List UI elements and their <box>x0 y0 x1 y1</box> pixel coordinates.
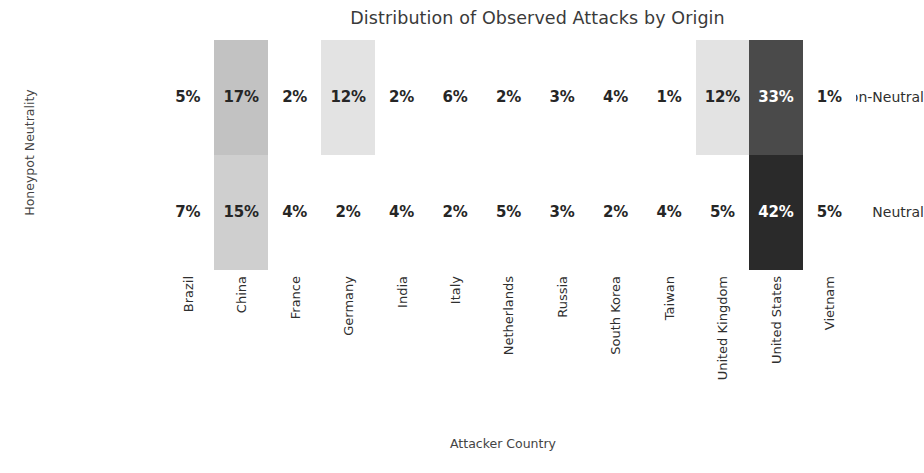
heatmap-row-non-neutral: 5%17%2%12%2%6%2%3%4%1%12%33%1% <box>161 40 856 155</box>
heatmap-cell: 4% <box>642 155 695 270</box>
heatmap-cell: 1% <box>803 40 856 155</box>
heatmap-cell-value: 3% <box>549 90 574 105</box>
x-tick-slot: United Kingdom <box>696 270 749 430</box>
heatmap-cell: 2% <box>482 40 535 155</box>
chart-title: Distribution of Observed Attacks by Orig… <box>150 8 924 28</box>
x-tick-slot: Brazil <box>161 270 214 430</box>
heatmap-cell: 5% <box>803 155 856 270</box>
heatmap-figure: Distribution of Observed Attacks by Orig… <box>0 0 924 473</box>
heatmap-cell-value: 12% <box>705 90 740 105</box>
x-tick-label: Italy <box>448 276 463 304</box>
x-tick-label: United States <box>768 276 783 364</box>
heatmap-cell: 3% <box>535 40 588 155</box>
x-tick-label: Germany <box>341 276 356 336</box>
x-tick-slot: Germany <box>321 270 374 430</box>
heatmap-cell: 3% <box>535 155 588 270</box>
heatmap-cell-value: 5% <box>175 90 200 105</box>
heatmap-cell: 2% <box>428 155 481 270</box>
heatmap-cell: 15% <box>214 155 267 270</box>
heatmap-cell-value: 12% <box>330 90 365 105</box>
heatmap-cell: 1% <box>642 40 695 155</box>
heatmap-cell-value: 2% <box>496 90 521 105</box>
x-tick-slot: Taiwan <box>642 270 695 430</box>
heatmap-cell: 2% <box>375 40 428 155</box>
x-tick-label: Netherlands <box>501 276 516 355</box>
heatmap-cell-value: 2% <box>603 205 628 220</box>
heatmap-cell-value: 4% <box>389 205 414 220</box>
x-tick-label: China <box>234 276 249 313</box>
heatmap-cell-value: 7% <box>175 205 200 220</box>
heatmap-cell-value: 1% <box>817 90 842 105</box>
heatmap-cell-value: 15% <box>224 205 259 220</box>
heatmap-cell: 4% <box>268 155 321 270</box>
x-tick-slot: United States <box>749 270 802 430</box>
heatmap-cell: 5% <box>482 155 535 270</box>
x-tick-slot: India <box>375 270 428 430</box>
heatmap-cell: 2% <box>589 155 642 270</box>
heatmap-cell-value: 3% <box>549 205 574 220</box>
x-tick-slot: Vietnam <box>803 270 856 430</box>
x-tick-slot: South Korea <box>589 270 642 430</box>
heatmap-cell-value: 17% <box>224 90 259 105</box>
heatmap-cell-value: 5% <box>710 205 735 220</box>
x-tick-slot: Russia <box>535 270 588 430</box>
heatmap-cell-value: 2% <box>282 90 307 105</box>
x-axis-title: Attacker Country <box>150 436 856 451</box>
x-tick-label: France <box>287 276 302 319</box>
x-tick-label: South Korea <box>608 276 623 355</box>
x-tick-label: Brazil <box>180 276 195 312</box>
heatmap-cell-value: 4% <box>282 205 307 220</box>
heatmap-cell-value: 4% <box>603 90 628 105</box>
x-tick-label: Vietnam <box>822 276 837 330</box>
heatmap-cell-value: 2% <box>336 205 361 220</box>
heatmap-cell: 42% <box>749 155 802 270</box>
heatmap-cell: 2% <box>321 155 374 270</box>
heatmap-cell-value: 33% <box>758 90 793 105</box>
heatmap-cell-value: 5% <box>817 205 842 220</box>
heatmap-cell: 17% <box>214 40 267 155</box>
x-tick-label: Russia <box>554 276 569 318</box>
heatmap-cell: 5% <box>696 155 749 270</box>
heatmap-cell: 5% <box>161 40 214 155</box>
x-tick-label: Taiwan <box>661 276 676 320</box>
heatmap-cell-value: 4% <box>656 205 681 220</box>
x-tick-label: United Kingdom <box>715 276 730 380</box>
x-tick-slot: France <box>268 270 321 430</box>
x-tick-label: India <box>394 276 409 308</box>
y-axis-title: Honeypot Neutrality <box>22 63 37 243</box>
heatmap-cell: 4% <box>589 40 642 155</box>
x-tick-slot: Netherlands <box>482 270 535 430</box>
heatmap-row-neutral: 7%15%4%2%4%2%5%3%2%4%5%42%5% <box>161 155 856 270</box>
heatmap-cell: 12% <box>696 40 749 155</box>
heatmap-cell: 33% <box>749 40 802 155</box>
x-axis-tick-labels: BrazilChinaFranceGermanyIndiaItalyNether… <box>161 270 856 430</box>
heatmap-cell: 6% <box>428 40 481 155</box>
heatmap-cell: 7% <box>161 155 214 270</box>
x-tick-slot: China <box>214 270 267 430</box>
heatmap-plot-area: 5%17%2%12%2%6%2%3%4%1%12%33%1% 7%15%4%2%… <box>161 40 856 270</box>
heatmap-cell-value: 2% <box>389 90 414 105</box>
heatmap-cell-value: 1% <box>656 90 681 105</box>
heatmap-cell: 4% <box>375 155 428 270</box>
x-tick-slot: Italy <box>428 270 481 430</box>
heatmap-cell-value: 5% <box>496 205 521 220</box>
heatmap-cell-value: 42% <box>758 205 793 220</box>
heatmap-cell: 12% <box>321 40 374 155</box>
heatmap-cell-value: 6% <box>443 90 468 105</box>
heatmap-cell-value: 2% <box>443 205 468 220</box>
heatmap-cell: 2% <box>268 40 321 155</box>
